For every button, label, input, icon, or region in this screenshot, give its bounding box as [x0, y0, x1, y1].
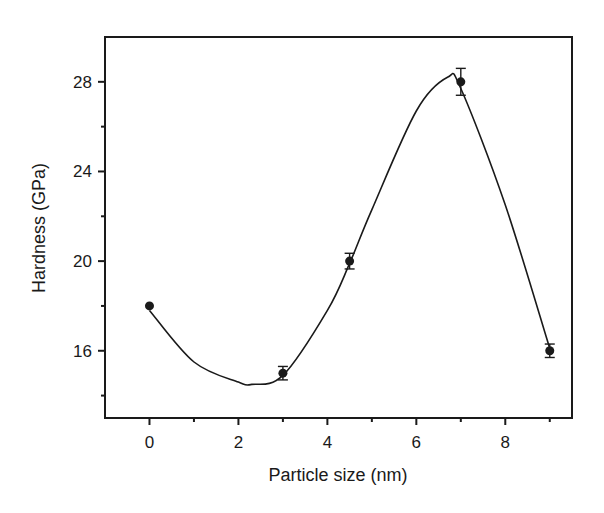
fit-curve [150, 73, 550, 385]
y-tick-label: 20 [73, 252, 92, 271]
marker [145, 301, 154, 310]
y-axis-ticks: 16202428 [73, 73, 105, 396]
data-points [145, 68, 555, 380]
x-tick-label: 6 [412, 433, 421, 452]
y-tick-label: 24 [73, 162, 92, 181]
y-tick-label: 16 [73, 342, 92, 361]
marker [545, 346, 554, 355]
hardness-vs-particle-size-chart: 02468 16202428 Particle size (nm) Hardne… [0, 0, 604, 513]
x-tick-label: 4 [323, 433, 332, 452]
data-point [456, 68, 466, 95]
marker [278, 369, 287, 378]
x-tick-label: 8 [501, 433, 510, 452]
plot-frame [105, 37, 572, 418]
y-axis-label: Hardness (GPa) [29, 163, 49, 293]
marker [345, 257, 354, 266]
x-tick-label: 0 [145, 433, 154, 452]
data-point [145, 301, 154, 310]
x-axis-ticks: 02468 [145, 418, 550, 452]
marker [456, 77, 465, 86]
data-point [545, 344, 555, 357]
x-axis-label: Particle size (nm) [268, 465, 407, 485]
y-tick-label: 28 [73, 73, 92, 92]
x-tick-label: 2 [234, 433, 243, 452]
